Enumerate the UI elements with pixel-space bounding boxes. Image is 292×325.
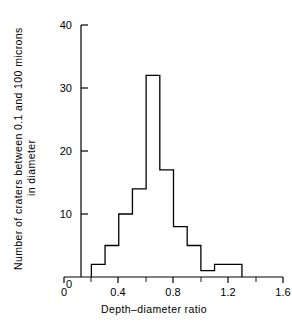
- x-tick-label-1-6: 1.6: [275, 286, 290, 298]
- x-tick-label-0-4: 0.4: [110, 286, 125, 298]
- y-tick-label-30: 30: [60, 82, 72, 94]
- x-axis-label: Depth–diameter ratio: [101, 303, 207, 315]
- histogram-plot: Number of craters between 0.1 and 100 mi…: [0, 0, 292, 325]
- y-tick-label-20: 20: [60, 145, 72, 157]
- y-tick-label-40: 40: [60, 19, 72, 31]
- y-axis-label-line2: in diameter: [25, 140, 37, 196]
- x-tick-label-0-8: 0.8: [165, 286, 180, 298]
- histogram-figure: Number of craters between 0.1 and 100 mi…: [0, 0, 292, 325]
- y-axis-label-line1: Number of craters between 0.1 and 100 mi…: [12, 27, 24, 270]
- x-tick-label-0: 0: [61, 286, 67, 298]
- y-tick-label-10: 10: [60, 208, 72, 220]
- x-tick-label-1-2: 1.2: [220, 286, 235, 298]
